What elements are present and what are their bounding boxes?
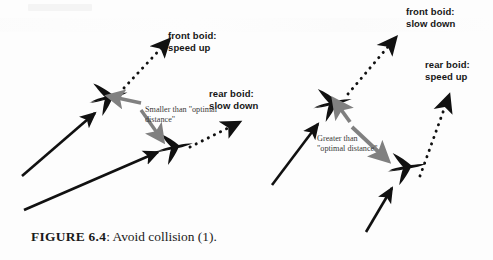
- figure-caption-text: : Avoid collision (1).: [106, 229, 217, 244]
- rear-boid-right: [384, 147, 429, 187]
- front-boid-desire-arrow-right: [348, 42, 392, 94]
- separation-annotation-right-line2: "optimal distance": [317, 144, 378, 154]
- separation-arrow-up-right: [337, 104, 350, 122]
- separation-annotation-left-line2: distance": [145, 115, 217, 125]
- avoid-collision-diagram: [0, 0, 493, 260]
- rear-boid-desire-arrow-left: [190, 125, 234, 147]
- separation-annotation-left: Smaller than "optimal distance": [145, 105, 217, 124]
- front-boid-label-left-line2: speed up: [168, 42, 217, 54]
- rear-boid-velocity-arrow-left: [24, 152, 158, 210]
- front-boid-label-right-line2: slow down: [406, 18, 455, 30]
- rear-boid-label-left-line1: rear boid:: [209, 88, 258, 100]
- front-boid-label-right: front boid: slow down: [406, 6, 455, 30]
- figure-caption: FIGURE 6.4: Avoid collision (1).: [31, 229, 217, 245]
- rear-boid-label-right: rear boid: speed up: [425, 59, 470, 83]
- rear-boid-desire-arrow-right: [420, 101, 447, 176]
- front-boid-label-left: front boid: speed up: [168, 30, 217, 54]
- rear-boid-label-right-line2: speed up: [425, 71, 470, 83]
- separation-annotation-left-line1: Smaller than "optimal: [145, 105, 217, 115]
- front-boid-desire-arrow-left: [124, 44, 165, 88]
- front-boid-velocity-arrow-left: [22, 113, 95, 176]
- front-boid-left: [84, 75, 131, 118]
- separation-arrow-up-left: [113, 97, 141, 103]
- front-boid-label-left-line1: front boid:: [168, 30, 217, 42]
- separation-annotation-right: Greater than "optimal distance": [317, 134, 378, 153]
- figure-caption-label: FIGURE 6.4: [31, 229, 106, 244]
- left-panel-group: [22, 44, 234, 210]
- rear-boid-label-right-line1: rear boid:: [425, 59, 470, 71]
- separation-annotation-right-line1: Greater than: [317, 134, 378, 144]
- front-boid-velocity-arrow-right: [272, 124, 318, 185]
- front-boid-label-right-line1: front boid:: [406, 6, 455, 18]
- rear-boid-velocity-arrow-right: [366, 188, 392, 232]
- figure-page: front boid: speed up rear boid: slow dow…: [0, 0, 493, 260]
